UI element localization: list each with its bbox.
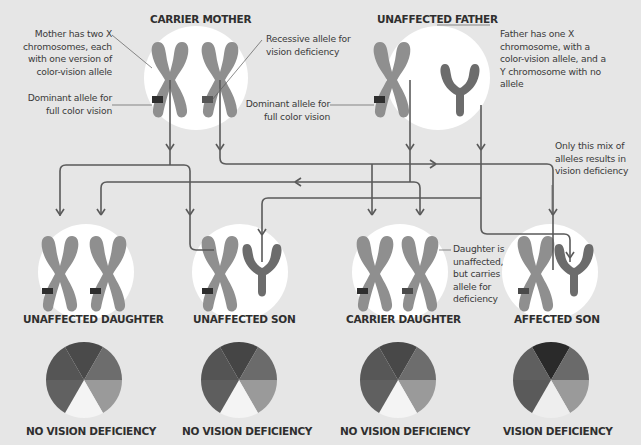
mother-title: CARRIER MOTHER: [150, 13, 251, 25]
outcome-2: NO VISION DEFICIENCY: [182, 425, 312, 437]
offspring-title-1: UNAFFECTED DAUGHTER: [23, 313, 164, 325]
father-xy-note: Father has one X chromosome, with a colo…: [500, 28, 610, 91]
offspring-title-3: CARRIER DAUGHTER: [346, 313, 461, 325]
wheel-carrier-daughter: [360, 342, 436, 418]
wheel-unaffected-daughter: [46, 342, 122, 418]
outcome-1: NO VISION DEFICIENCY: [26, 425, 156, 437]
inheritance-lines: [56, 25, 574, 270]
mix-note: Only this mix of alleles results in visi…: [555, 140, 639, 178]
father-title: UNAFFECTED FATHER: [377, 13, 498, 25]
outcome-3: NO VISION DEFICIENCY: [340, 425, 470, 437]
father-dominant-note: Dominant allele for full color vision: [236, 98, 330, 123]
outcome-4: VISION DEFICIENCY: [503, 425, 613, 437]
mother-recessive-note: Recessive allele for vision deficiency: [266, 33, 356, 58]
mother-two-x-note: Mother has two X chromosomes, each with …: [12, 28, 112, 78]
offspring-title-2: UNAFFECTED SON: [193, 313, 295, 325]
wheel-affected-son: [513, 342, 589, 418]
carrier-note: Daughter is unaffected, but carries alle…: [453, 243, 513, 306]
wheel-unaffected-son: [201, 342, 277, 418]
mother-dominant-note: Dominant allele for full color vision: [12, 92, 112, 117]
offspring-title-4: AFFECTED SON: [514, 313, 600, 325]
